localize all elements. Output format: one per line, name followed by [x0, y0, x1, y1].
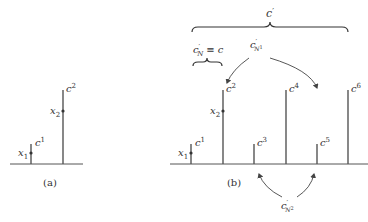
svg-text:c2: c2 — [66, 82, 76, 94]
svg-text:c5: c5 — [320, 136, 330, 148]
svg-text:c2: c2 — [226, 82, 236, 94]
svg-text:c4: c4 — [289, 82, 300, 94]
panel-b-bar-c3: c3 — [254, 136, 267, 164]
panel-a-caption: (a) — [43, 177, 57, 188]
arrow-n1-to-c2 — [227, 58, 249, 83]
svg-text:x2: x2 — [50, 105, 60, 119]
panel-b: c1 c2 c3 c4 c5 c6 x1 x2 — [170, 6, 368, 213]
panel-b-bar-c5: c5 — [317, 136, 330, 164]
svg-text:c1: c1 — [195, 136, 205, 148]
svg-text:x1: x1 — [178, 147, 188, 161]
panel-b-bar-c6: c6 — [348, 82, 362, 164]
top-brace: c′ — [192, 6, 348, 32]
svg-text:c1: c1 — [35, 136, 45, 148]
panel-a-bar-c2: c2 — [63, 82, 76, 164]
svg-text:c′N1: c′N1 — [250, 38, 263, 52]
svg-text:c′N≡c: c′N≡c — [193, 43, 224, 58]
panel-b-bar-c2: c2 — [223, 82, 236, 164]
svg-text:c6: c6 — [351, 82, 362, 94]
svg-text:c′: c′ — [266, 6, 274, 20]
svg-text:x2: x2 — [210, 105, 220, 119]
small-brace: c′N≡c — [193, 43, 224, 66]
arrow-n2-to-c3 — [259, 174, 282, 197]
svg-text:c′N2: c′N2 — [281, 199, 294, 213]
panel-b-caption: (b) — [227, 177, 241, 188]
svg-text:c3: c3 — [257, 136, 267, 148]
arrow-n2-to-c5 — [297, 174, 314, 197]
diagram-canvas: c1 c2 x1 x2 (a) c1 c2 c3 — [0, 0, 368, 222]
panel-b-bar-c4: c4 — [286, 82, 300, 164]
group-n1: c′N1 — [227, 38, 317, 88]
panel-a: c1 c2 x1 x2 (a) — [10, 82, 83, 188]
panel-a-bar-c1: c1 — [31, 136, 45, 164]
svg-text:x1: x1 — [18, 147, 28, 161]
group-n2: c′N2 — [259, 174, 314, 213]
panel-b-bar-c1: c1 — [191, 136, 205, 164]
